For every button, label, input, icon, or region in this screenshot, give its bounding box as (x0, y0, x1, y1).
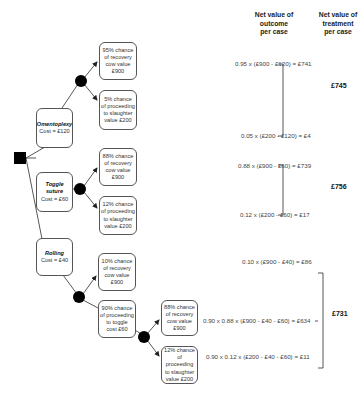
calc-rolling-1: 0.10 x (£900 - £40) = £86 (242, 258, 312, 265)
total-rolling: £731 (332, 310, 348, 317)
decision-node (14, 152, 26, 164)
outcome-rolling-toggle-slaughter: 12% chanceof proceedingto slaughtervalue… (161, 346, 198, 384)
treatment-omentoplexy: OmentoplexyCost = £120 (36, 108, 73, 148)
outcome-omento-recovery: 95% chanceof recoverycow value£900 (99, 42, 137, 80)
outcome-omento-slaughter: 5% chanceof proceedingto slaughtervalue … (99, 90, 137, 130)
calc-toggle-1: 0.88 x (£900 - £60) = £739 (238, 162, 311, 169)
treatment-toggle-suture: Toggle sutureCost = £60 (36, 172, 73, 212)
outcome-toggle-recovery: 88% chanceof recoverycow value£900 (99, 148, 137, 186)
total-omentoplexy: £745 (331, 82, 347, 89)
outcome-rolling-toggle: 90% chanceof proceedingto togglecost £60 (98, 300, 136, 338)
calc-toggle-2: 0.12 x (£200 - £60) = £17 (240, 211, 310, 218)
outcome-rolling-toggle-recovery: 88% chanceof recoverycow value£900 (161, 300, 198, 336)
total-toggle: £756 (331, 183, 347, 190)
treatment-rolling: RollingCost = £40 (36, 238, 73, 276)
header-outcome: Net value ofoutcomeper case (244, 11, 304, 37)
calc-rolling-2: 0.90 x 0.88 x (£900 - £40 - £60) = £634 (203, 317, 311, 324)
outcome-rolling-recovery: 10% chanceof recoverycow value£900 (98, 253, 136, 291)
header-treatment: Net value oftreatmentper case (313, 11, 363, 37)
calc-omento-2: 0.05 x (£200 - £120) = £4 (241, 132, 311, 139)
outcome-toggle-slaughter: 12% chanceof proceedingto slaughtervalue… (99, 196, 137, 235)
calc-rolling-3: 0.90 x 0.12 x (£200 - £40 - £60) = £11 (206, 353, 310, 360)
calc-omento-1: 0.95 x (£900 - £120) = £741 (235, 60, 312, 67)
